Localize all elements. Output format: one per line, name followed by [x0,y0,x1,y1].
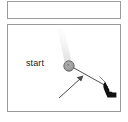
start-marker-center-dot [67,64,69,66]
empty-panel [7,1,121,19]
figure-stage: start [0,0,128,122]
illustration-canvas [8,25,120,111]
motion-streak [57,27,73,66]
start-marker[interactable] [64,61,74,71]
illustration-panel: start [7,24,121,112]
callout-arrow [59,76,84,99]
start-label: start [26,58,44,69]
